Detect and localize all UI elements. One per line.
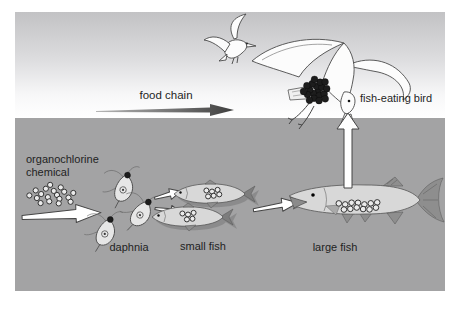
small-fish-2-illustration xyxy=(150,203,234,231)
food-chain-arrow-icon xyxy=(95,102,237,118)
chemical-particle xyxy=(368,201,374,207)
chemical-particle xyxy=(303,82,310,89)
small-fish-1-particles xyxy=(204,187,222,199)
gull-tail xyxy=(219,54,227,61)
chemical-particle xyxy=(316,97,323,104)
chemical-particle xyxy=(184,217,189,222)
chemical-particle xyxy=(311,76,318,83)
chemical-particle xyxy=(374,200,380,206)
bird-particle-cluster xyxy=(300,76,330,104)
chemical-particle xyxy=(360,206,366,212)
bird-legs xyxy=(288,102,314,129)
chemical-particle xyxy=(323,85,330,92)
gull-far-wing xyxy=(231,14,246,39)
daphnia-label: daphnia xyxy=(89,241,169,254)
large-fish-anal-fin xyxy=(387,212,403,224)
chemical-particle xyxy=(348,206,354,212)
chemical-particle xyxy=(27,193,32,198)
chemical-particle xyxy=(306,97,313,104)
daphnia-antenna xyxy=(125,192,145,204)
chemical-particle xyxy=(34,195,39,200)
food-chain-label: food chain xyxy=(121,89,211,102)
large-fish-dorsal-fin xyxy=(383,177,403,186)
organochlorine-chemical-label-line2: chemical xyxy=(26,166,99,179)
large-fish-illustration xyxy=(286,176,448,232)
chemical-particle xyxy=(71,190,76,195)
daphnia-antenna xyxy=(87,213,107,223)
small-fish-label: small fish xyxy=(163,240,243,253)
chemical-particle xyxy=(336,201,342,207)
large-fish-to-bird-arrow-icon xyxy=(335,111,361,191)
chemical-particle xyxy=(39,191,44,196)
large-fish-label: large fish xyxy=(295,241,375,254)
chemical-particle xyxy=(354,205,360,211)
fish-dorsal-fin xyxy=(205,180,216,184)
organochlorine-chemical-label: organochlorine chemical xyxy=(26,153,99,179)
chemical-particle xyxy=(322,95,329,102)
daphnia-tail-spine xyxy=(127,223,133,231)
large-fish-eye xyxy=(311,193,315,197)
chemical-particle xyxy=(33,188,38,193)
chemical-particle xyxy=(48,182,53,187)
chemical-particle xyxy=(206,194,211,199)
chemical-particle xyxy=(43,186,48,191)
chemical-particle xyxy=(190,216,195,221)
chemical-particle xyxy=(58,185,63,190)
chemical-particle xyxy=(322,79,329,86)
food-chain-arrow-shape xyxy=(96,104,234,116)
chemical-particle xyxy=(211,193,216,198)
organochlorine-chemical-label-line1: organochlorine xyxy=(26,153,99,166)
chemical-particle xyxy=(186,212,191,217)
page: { "labels": { "food_chain": "food chain"… xyxy=(0,0,463,310)
chemical-particle xyxy=(191,210,196,215)
chemical-particle xyxy=(349,200,355,206)
fish-eating-bird-illustration xyxy=(248,34,413,146)
chemical-particle xyxy=(341,207,347,213)
arrow-shape xyxy=(337,113,359,188)
chemical-particle xyxy=(180,211,185,216)
chemical-particle xyxy=(204,188,209,193)
bird-eye xyxy=(348,100,351,103)
fish-eye xyxy=(179,191,181,193)
chemical-particle xyxy=(217,192,222,197)
fish-dorsal-fin xyxy=(183,203,194,207)
gull-near-wing xyxy=(204,37,230,52)
fish-body xyxy=(174,184,245,203)
chemical-particle xyxy=(367,207,373,213)
chemical-particle xyxy=(373,205,379,211)
food-chain-diagram: food chain fish-eating bird xyxy=(15,12,445,291)
fish-eating-bird-label: fish-eating bird xyxy=(360,92,432,105)
chemical-particle xyxy=(300,88,307,95)
fish-eye xyxy=(157,214,159,216)
chemical-particle xyxy=(51,188,56,193)
